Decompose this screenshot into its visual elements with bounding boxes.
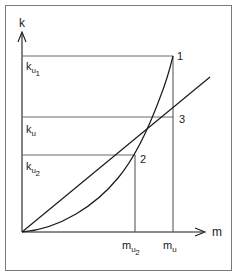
- exponential-curve: [22, 56, 173, 232]
- plot-canvas: [0, 0, 238, 277]
- y-axis: [18, 32, 26, 232]
- tick-label-mu2: mu2: [122, 240, 140, 251]
- point-label-1: 1: [177, 51, 183, 62]
- tick-label-mu2-base: m: [122, 239, 131, 251]
- figure-root: k m ku1 ku ku2 mu2 mu 1 3 2: [0, 0, 238, 277]
- tick-label-mu: mu: [163, 240, 177, 251]
- level-label-ku2-base: k: [26, 160, 32, 172]
- tick-label-mu-base: m: [163, 239, 172, 251]
- level-label-ku-sub-a: u: [32, 129, 36, 138]
- tick-label-mu2-sub-b: 2: [135, 248, 139, 257]
- tick-label-mu-sub-a: u: [172, 245, 176, 254]
- level-label-ku2-sub-b: 2: [35, 169, 39, 178]
- level-label-ku-base: k: [26, 123, 32, 135]
- point-label-2: 2: [140, 154, 146, 165]
- point-label-3: 3: [179, 114, 185, 125]
- x-axis-label: m: [212, 226, 222, 238]
- y-axis-label: k: [19, 17, 25, 29]
- x-axis: [22, 228, 205, 236]
- level-label-ku2: ku2: [26, 161, 40, 172]
- level-label-ku1-base: k: [26, 60, 32, 72]
- level-label-ku1-sub-b: 1: [35, 69, 39, 78]
- level-label-ku: ku: [26, 124, 36, 135]
- level-label-ku1: ku1: [26, 61, 40, 72]
